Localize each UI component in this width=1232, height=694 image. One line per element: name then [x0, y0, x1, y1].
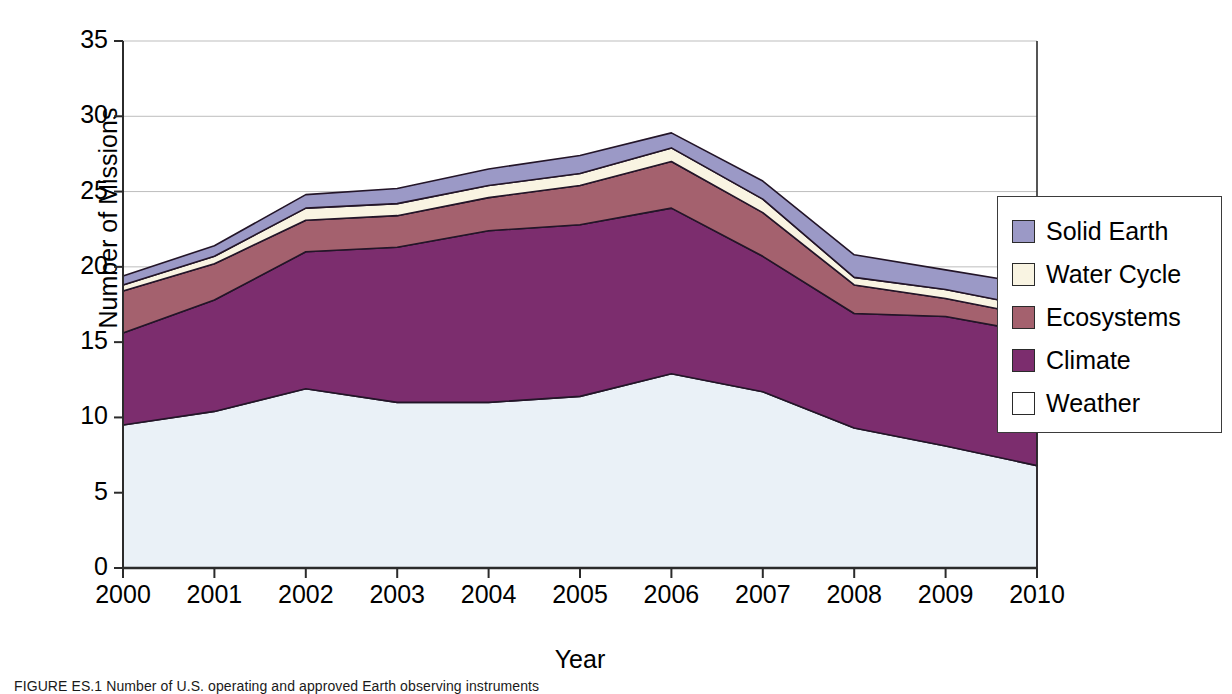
figure-container: Number of Missions 05101520253035 200020…	[0, 0, 1232, 694]
legend-swatch-icon	[1012, 306, 1035, 329]
y-tick-label: 5	[46, 479, 108, 504]
x-axis-label: Year	[123, 645, 1037, 674]
y-tick-label: 30	[46, 102, 108, 127]
legend-swatch-icon	[1012, 220, 1035, 243]
y-tick-label: 15	[46, 328, 108, 353]
legend-item-water-cycle[interactable]: Water Cycle	[1012, 253, 1221, 296]
x-tick-label: 2002	[256, 582, 356, 607]
y-tick-label: 25	[46, 178, 108, 203]
x-tick-label: 2009	[896, 582, 996, 607]
legend-item-climate[interactable]: Climate	[1012, 339, 1221, 382]
x-tick-label: 2001	[164, 582, 264, 607]
x-tick-label: 2007	[713, 582, 813, 607]
legend-item-solid-earth[interactable]: Solid Earth	[1012, 210, 1221, 253]
y-tick-label: 10	[46, 403, 108, 428]
x-tick-label: 2004	[439, 582, 539, 607]
y-tick-label: 0	[46, 554, 108, 579]
x-tick-label: 2003	[347, 582, 447, 607]
x-tick-label: 2008	[804, 582, 904, 607]
x-tick-label: 2000	[73, 582, 173, 607]
legend-swatch-icon	[1012, 349, 1035, 372]
legend-swatch-icon	[1012, 263, 1035, 286]
chart-legend: Solid EarthWater CycleEcosystemsClimateW…	[997, 196, 1222, 433]
legend-label: Ecosystems	[1046, 305, 1181, 330]
x-tick-label: 2006	[621, 582, 721, 607]
y-tick-label: 20	[46, 253, 108, 278]
legend-label: Weather	[1046, 391, 1140, 416]
y-tick-label: 35	[46, 27, 108, 52]
legend-swatch-icon	[1012, 392, 1035, 415]
legend-label: Water Cycle	[1046, 262, 1181, 287]
legend-item-weather[interactable]: Weather	[1012, 382, 1221, 425]
legend-item-ecosystems[interactable]: Ecosystems	[1012, 296, 1221, 339]
x-tick-label: 2010	[987, 582, 1087, 607]
legend-label: Solid Earth	[1046, 219, 1168, 244]
area-series-group	[123, 133, 1037, 568]
x-tick-label: 2005	[530, 582, 630, 607]
legend-label: Climate	[1046, 348, 1131, 373]
figure-caption: FIGURE ES.1 Number of U.S. operating and…	[14, 678, 539, 694]
